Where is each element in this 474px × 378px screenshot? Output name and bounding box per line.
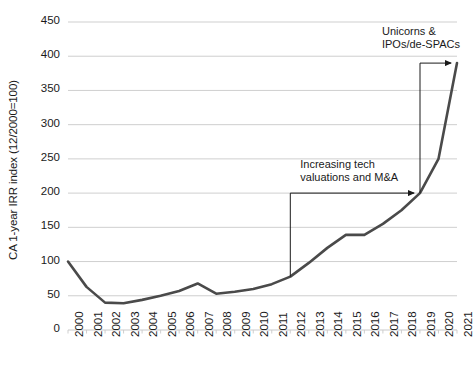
annotation-unicorns: Unicorns &IPOs/de-SPACs: [382, 25, 460, 51]
x-axis-tick-label: 2005: [166, 311, 178, 337]
y-axis-tick-label: 350: [30, 82, 60, 94]
annotation-line-2: valuations and M&A: [300, 171, 398, 184]
y-axis-tick-label: 400: [30, 48, 60, 60]
x-axis-tick-label: 2015: [351, 311, 363, 337]
x-axis-tick-label: 2016: [369, 311, 381, 337]
x-axis-tick-label: 2011: [277, 312, 289, 337]
y-axis-tick-label: 100: [30, 254, 60, 266]
x-axis-tick-label: 2004: [147, 311, 159, 337]
annotation-line-1: Increasing tech: [300, 158, 398, 171]
annotation-line-2: IPOs/de-SPACs: [382, 38, 460, 51]
y-axis-tick-label: 300: [30, 117, 60, 129]
x-axis-tick-label: 2002: [110, 311, 122, 337]
y-axis-tick-label: 250: [30, 151, 60, 163]
x-axis-tick-label: 2012: [295, 311, 307, 337]
y-axis-tick-label: 200: [30, 185, 60, 197]
x-axis-tick-label: 2001: [92, 311, 104, 337]
y-axis-tick-label: 0: [30, 322, 60, 334]
x-axis-tick-label: 2003: [129, 311, 141, 337]
x-axis-tick-label: 2010: [258, 311, 270, 337]
x-axis-tick-label: 2014: [332, 311, 344, 337]
y-axis-tick-label: 150: [30, 219, 60, 231]
x-axis-tick-label: 2000: [73, 311, 85, 337]
x-axis-tick-label: 2006: [184, 311, 196, 337]
annotation-bracket: [420, 63, 451, 193]
annotation-line-1: Unicorns &: [382, 25, 460, 38]
annotation-tech-valuations: Increasing techvaluations and M&A: [300, 158, 398, 184]
x-axis-tick-label: 2020: [443, 311, 455, 337]
x-axis-tick-label: 2017: [388, 311, 400, 337]
y-axis-tick-label: 450: [30, 14, 60, 26]
x-axis-tick-label: 2013: [314, 311, 326, 337]
x-axis-tick-label: 2021: [462, 311, 474, 337]
y-axis-tick-label: 50: [30, 288, 60, 300]
x-axis-tick-label: 2007: [203, 311, 215, 337]
x-axis-tick-label: 2018: [406, 311, 418, 337]
x-axis-tick-label: 2019: [425, 311, 437, 337]
x-axis-tick-label: 2008: [221, 311, 233, 337]
data-series-line: [68, 63, 457, 303]
x-axis-tick-label: 2009: [240, 311, 252, 337]
